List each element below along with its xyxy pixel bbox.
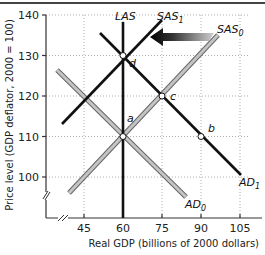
svg-text:90: 90: [194, 222, 208, 235]
svg-text:45: 45: [77, 222, 91, 235]
label-a: a: [127, 112, 134, 125]
point-a: [120, 134, 126, 140]
svg-text:75: 75: [155, 222, 169, 235]
chart: 140 130 120 110 100 45 60 75 90 105 Real…: [0, 0, 265, 255]
svg-text:130: 130: [18, 50, 39, 63]
y-axis-title: Price level (GDP deflator, 2000 = 100): [4, 19, 15, 211]
sas0-curve: [69, 35, 218, 193]
shift-arrow: [150, 28, 214, 46]
svg-text:60: 60: [116, 222, 130, 235]
label-ad0: AD0: [184, 198, 206, 213]
svg-text:120: 120: [18, 90, 39, 103]
label-b: b: [208, 122, 215, 135]
label-ad1: AD1: [238, 176, 260, 191]
label-d: d: [129, 57, 137, 70]
svg-text:105: 105: [230, 222, 251, 235]
point-b: [198, 134, 204, 140]
point-c: [159, 93, 165, 99]
label-las: LAS: [115, 10, 136, 23]
x-axis-title: Real GDP (billions of 2000 dollars): [89, 238, 260, 249]
x-tick-labels: 45 60 75 90 105: [77, 222, 251, 235]
label-sas0: SAS0: [217, 23, 244, 38]
point-d: [120, 53, 126, 59]
y-tick-labels: 140 130 120 110 100: [18, 9, 39, 184]
label-sas1: SAS1: [157, 10, 184, 25]
svg-text:100: 100: [18, 171, 39, 184]
label-c: c: [170, 90, 176, 103]
svg-text:140: 140: [18, 9, 39, 22]
svg-text:110: 110: [18, 131, 39, 144]
